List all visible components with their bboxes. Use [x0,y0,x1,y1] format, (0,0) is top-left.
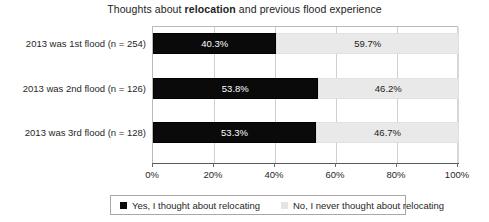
bar-segment-yes[interactable]: 53.3% [153,122,316,143]
x-tick-label-40: 40% [252,169,296,180]
category-label-2: 2013 was 2nd flood (n = 126) [0,83,146,94]
bar-segment-no[interactable]: 59.7% [276,33,459,54]
x-tick-mark-40 [274,163,275,167]
bar-row: 53.8% 46.2% [153,78,457,99]
bar-segment-no[interactable]: 46.2% [318,78,459,99]
bar-value-label: 46.7% [374,127,401,138]
legend-item-no[interactable]: No, I never thought about relocating [281,200,444,211]
x-tick-mark-100 [457,163,458,167]
category-label-3: 2013 was 3rd flood (n = 128) [0,127,146,138]
plot-area: 40.3% 59.7% 53.8% 46.2% 53.3% 46.7% [152,26,458,163]
category-label-1: 2013 was 1st flood (n = 254) [0,38,146,49]
chart-title-emphasis: relocation [185,3,236,15]
light-gray-square-swatch-icon [281,202,288,209]
chart-legend: Yes, I thought about relocating No, I ne… [110,195,406,215]
legend-label-no: No, I never thought about relocating [293,200,444,211]
bar-value-label: 53.3% [221,127,248,138]
chart-title: Thoughts about relocation and previous f… [0,3,489,15]
legend-item-yes[interactable]: Yes, I thought about relocating [120,200,260,211]
x-tick-label-100: 100% [435,169,479,180]
legend-label-yes: Yes, I thought about relocating [132,200,260,211]
bar-row: 40.3% 59.7% [153,33,457,54]
black-square-swatch-icon [120,202,127,209]
bar-segment-yes[interactable]: 40.3% [153,33,276,54]
bar-value-label: 40.3% [201,38,228,49]
bar-row: 53.3% 46.7% [153,122,457,143]
x-tick-label-60: 60% [313,169,357,180]
x-tick-label-20: 20% [191,169,235,180]
x-tick-label-80: 80% [374,169,418,180]
x-tick-mark-0 [152,163,153,167]
chart-title-suffix: and previous flood experience [236,3,382,15]
x-tick-mark-80 [396,163,397,167]
bar-value-label: 46.2% [375,83,402,94]
chart-title-prefix: Thoughts about [107,3,184,15]
x-tick-mark-60 [335,163,336,167]
bar-value-label: 53.8% [222,83,249,94]
x-axis-line [152,163,459,164]
x-tick-mark-20 [213,163,214,167]
bar-value-label: 59.7% [354,38,381,49]
bar-segment-no[interactable]: 46.7% [316,122,459,143]
x-tick-label-0: 0% [130,169,174,180]
bar-segment-yes[interactable]: 53.8% [153,78,318,99]
